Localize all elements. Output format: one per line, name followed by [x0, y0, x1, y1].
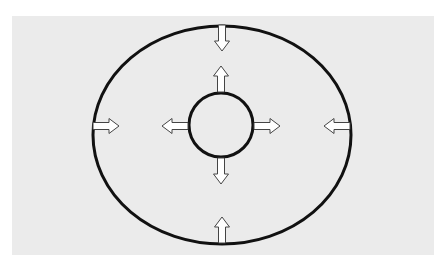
arrow-left-inward-icon — [93, 119, 119, 134]
arrow-top-inward-icon — [215, 25, 230, 51]
arrow-right-outward-icon — [254, 119, 280, 134]
arrow-bottom-inward-icon — [215, 217, 230, 243]
arrow-down-outward-icon — [214, 158, 229, 184]
arrow-left-outward-icon — [162, 119, 188, 134]
inner-circle — [189, 93, 253, 157]
outer-ellipse — [93, 26, 351, 244]
diagram-canvas — [0, 0, 446, 264]
arrow-right-inward-icon — [324, 119, 350, 134]
arrow-up-outward-icon — [214, 66, 229, 92]
